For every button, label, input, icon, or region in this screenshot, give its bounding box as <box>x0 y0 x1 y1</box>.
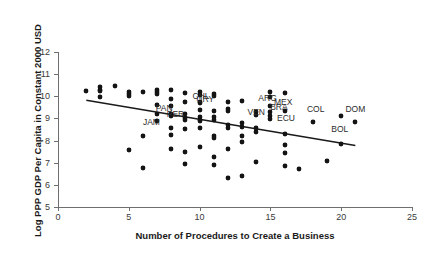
data-point <box>240 140 244 144</box>
plot-area: JAMPANPERCHLURYVENARGMEXBRAECUCOLBOLDOM <box>58 52 412 207</box>
data-point <box>240 174 244 178</box>
data-point <box>226 147 230 151</box>
x-tick-label: 20 <box>336 212 346 222</box>
country-label-bra: BRA <box>270 102 287 112</box>
data-point <box>113 84 117 88</box>
x-axis-line <box>58 207 412 208</box>
data-point <box>283 164 287 168</box>
data-point <box>254 130 258 134</box>
trend-line <box>58 52 412 207</box>
data-point <box>325 159 329 163</box>
data-point <box>226 100 230 104</box>
x-tick-label: 10 <box>195 212 205 222</box>
x-tick <box>341 207 342 211</box>
data-point <box>212 163 216 167</box>
scatter-chart: 56789101112 0510152025 JAMPANPERCHLURYVE… <box>0 0 436 265</box>
data-point <box>226 126 230 130</box>
data-point <box>283 91 287 95</box>
country-label-ecu: ECU <box>277 113 295 123</box>
data-point <box>212 109 216 113</box>
x-tick <box>412 207 413 211</box>
data-point <box>339 114 343 118</box>
data-point <box>240 99 244 103</box>
data-point <box>226 109 230 113</box>
country-label-bol: BOL <box>331 124 348 134</box>
x-tick-label: 5 <box>126 212 131 222</box>
data-point <box>240 134 244 138</box>
x-tick-label: 15 <box>265 212 275 222</box>
x-tick-label: 0 <box>55 212 60 222</box>
data-point <box>198 108 202 112</box>
data-point <box>212 136 216 140</box>
data-point <box>212 118 216 122</box>
country-label-jam: JAM <box>143 117 160 127</box>
data-point <box>226 176 230 180</box>
x-tick <box>270 207 271 211</box>
x-tick <box>200 207 201 211</box>
x-tick-label: 25 <box>407 212 417 222</box>
data-point <box>198 119 202 123</box>
x-axis-title: Number of Procedures to Create a Busines… <box>58 230 412 241</box>
country-label-ury: URY <box>196 94 214 104</box>
country-label-per: PER <box>167 109 184 119</box>
x-tick <box>58 207 59 211</box>
data-point <box>198 145 202 149</box>
x-tick <box>129 207 130 211</box>
data-point <box>283 143 287 147</box>
data-point <box>283 132 287 136</box>
y-axis-title: Log PPP GDP Per Capita in Constant 2000 … <box>32 23 43 238</box>
country-label-dom: DOM <box>345 104 365 114</box>
data-point <box>169 133 173 137</box>
data-point <box>141 166 145 170</box>
country-label-ven: VEN <box>247 107 264 117</box>
data-point <box>141 90 145 94</box>
data-point <box>212 155 216 159</box>
country-label-col: COL <box>307 104 324 114</box>
data-point <box>127 148 131 152</box>
